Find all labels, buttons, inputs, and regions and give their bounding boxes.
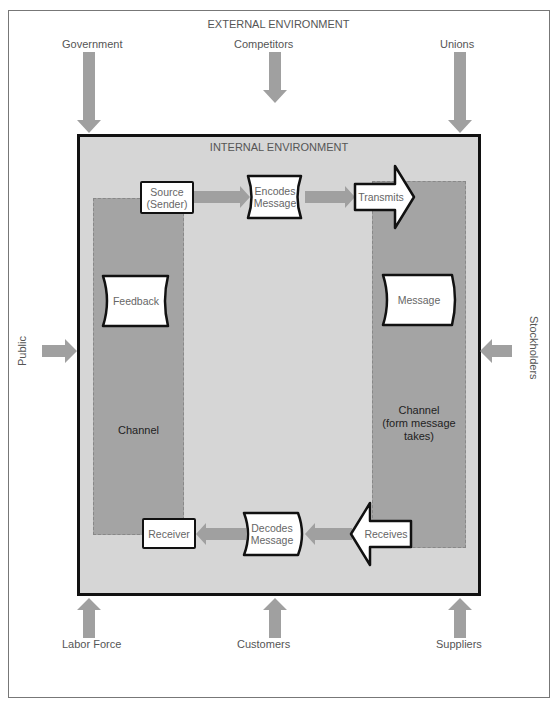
arrow-competitors (263, 52, 287, 103)
arrow-labor-force (77, 598, 101, 638)
transmits-label: Transmits (355, 184, 407, 210)
receiver-box: Receiver (142, 518, 196, 549)
arrow-source-to-encodes (194, 186, 250, 208)
receives-label: Receives (360, 521, 412, 547)
message-label: Message (386, 275, 452, 325)
decodes-line-2: Message (251, 534, 294, 546)
decodes-message-label: Decodes Message (246, 513, 298, 555)
source-line-2: (Sender) (147, 198, 188, 210)
arrow-encodes-to-transmits (305, 186, 355, 208)
arrow-receives-to-decodes (305, 523, 352, 545)
label-suppliers: Suppliers (436, 638, 482, 650)
source-sender-box: Source (Sender) (140, 181, 194, 214)
label-customers: Customers (237, 638, 290, 650)
feedback-label: Feedback (105, 276, 167, 326)
decodes-line-1: Decodes (251, 522, 292, 534)
label-public: Public (16, 336, 28, 366)
arrows-layer (0, 0, 557, 704)
encodes-line-2: Message (254, 197, 297, 209)
label-labor-force: Labor Force (62, 638, 121, 650)
arrow-stockholders (480, 339, 512, 363)
arrow-customers (263, 598, 287, 638)
arrow-public (42, 339, 77, 363)
arrow-suppliers (448, 598, 472, 638)
arrow-unions (448, 52, 472, 133)
label-stockholders: Stockholders (528, 316, 540, 380)
source-line-1: Source (150, 186, 183, 198)
encodes-line-1: Encodes (255, 185, 296, 197)
arrow-government (77, 52, 101, 133)
arrow-decodes-to-receiver (196, 523, 246, 545)
encodes-message-label: Encodes Message (250, 176, 300, 218)
